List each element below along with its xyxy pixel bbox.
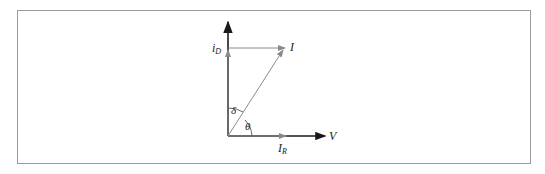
- phasor-diagram: iD I IR V δ θ: [0, 0, 545, 174]
- i-label: I: [289, 40, 295, 54]
- v-label: V: [329, 129, 338, 143]
- theta-label: θ: [245, 120, 251, 132]
- i-vector: [228, 50, 283, 136]
- delta-label: δ: [231, 104, 237, 116]
- ir-label: IR: [277, 141, 287, 156]
- id-label: iD: [212, 41, 221, 56]
